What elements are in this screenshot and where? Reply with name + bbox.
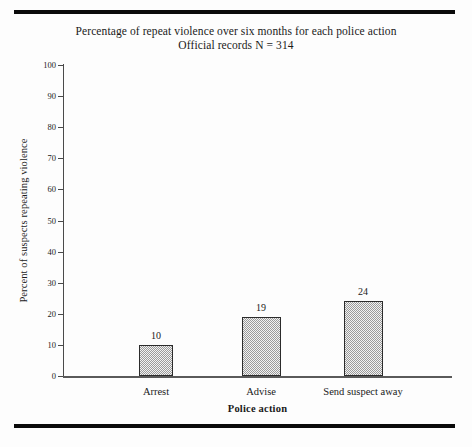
chart-title-line2: Official records N = 314 <box>0 38 472 52</box>
y-tick-label: 30 <box>48 278 57 288</box>
y-tick-mark <box>58 283 63 284</box>
x-axis-line <box>63 376 452 378</box>
y-tick-label: 50 <box>48 216 57 226</box>
chart-title-line1: Percentage of repeat violence over six m… <box>0 24 472 38</box>
x-category-label: Send suspect away <box>323 386 402 397</box>
y-tick-mark <box>58 96 63 97</box>
top-rule <box>14 10 455 14</box>
bar-value-label: 10 <box>151 330 161 341</box>
y-tick-label: 90 <box>48 91 57 101</box>
y-tick-label: 20 <box>48 309 57 319</box>
bar-value-label: 24 <box>358 286 368 297</box>
x-axis-title: Police action <box>63 403 452 414</box>
y-tick-mark <box>58 252 63 253</box>
bottom-rule <box>14 424 455 428</box>
y-axis-line <box>63 64 64 377</box>
figure-page: Percentage of repeat violence over six m… <box>0 0 472 447</box>
plot-area: 0102030405060708090100 101924 ArrestAdvi… <box>63 64 452 377</box>
y-tick-mark <box>58 189 63 190</box>
y-tick-mark <box>58 345 63 346</box>
y-tick-mark <box>58 221 63 222</box>
y-tick-label: 80 <box>48 122 57 132</box>
y-tick-label: 70 <box>48 153 57 163</box>
x-category-label: Arrest <box>143 386 169 397</box>
y-tick-label: 10 <box>48 340 57 350</box>
bar-advise <box>242 317 281 376</box>
y-tick-label: 60 <box>48 184 57 194</box>
bar-send-suspect-away <box>344 301 383 376</box>
y-tick-mark <box>58 376 63 377</box>
x-category-label: Advise <box>246 386 276 397</box>
y-tick-mark <box>58 314 63 315</box>
y-axis-title: Percent of suspects repeating violence <box>18 64 32 377</box>
y-tick-mark <box>58 127 63 128</box>
bar-value-label: 19 <box>256 302 266 313</box>
bar-arrest <box>139 345 173 376</box>
y-tick-label: 100 <box>43 60 56 70</box>
y-tick-label: 40 <box>48 247 57 257</box>
y-tick-label: 0 <box>52 371 56 381</box>
y-tick-mark <box>58 158 63 159</box>
y-tick-mark <box>58 65 63 66</box>
